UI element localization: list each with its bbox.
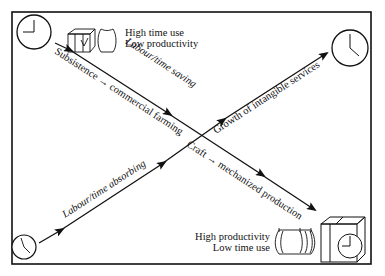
clock-icon-top-left (17, 15, 51, 49)
sack-icon (98, 29, 116, 52)
bundle-icon (68, 29, 95, 52)
diagram-canvas: High time use Low productivity Labour/ti… (0, 0, 385, 276)
clock-icon-bottom-left (12, 235, 36, 259)
clock-icon-top-right (332, 30, 368, 66)
labour-time-absorbing-label: Labour/time absorbing (59, 158, 147, 221)
high-time-use-label: High time use (125, 27, 184, 38)
high-productivity-label: High productivity (195, 231, 271, 242)
growth-intangible-services-label: Growth of intangible services (211, 59, 321, 136)
low-time-use-label: Low time use (213, 242, 270, 253)
craft-mechanized-production-label: Craft → mechanized production (185, 138, 305, 221)
machine-with-clock-icon (321, 217, 365, 262)
tied-sacks-icon (275, 228, 315, 254)
